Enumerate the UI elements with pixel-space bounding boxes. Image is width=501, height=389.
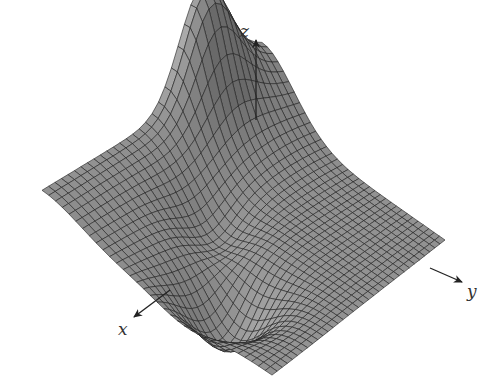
surface-mesh [42, 0, 445, 375]
z-axis-label: z [239, 21, 250, 41]
y-axis-line [430, 268, 462, 282]
surface-plot: z y x [0, 0, 501, 389]
y-axis-label: y [466, 281, 477, 301]
x-axis-label: x [118, 319, 128, 339]
